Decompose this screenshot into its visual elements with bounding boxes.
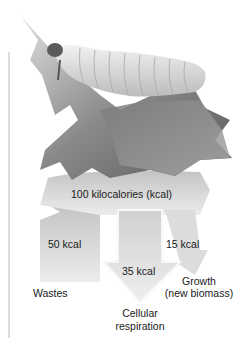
growth-value-label: 15 kcal — [166, 238, 199, 250]
respiration-destination-label-line1: Cellular — [110, 307, 170, 319]
respiration-value-label: 35 kcal — [122, 265, 155, 277]
energy-flow-diagram: 100 kilocalories (kcal) 50 kcal 15 kcal … — [0, 0, 252, 338]
input-energy-label: 100 kilocalories (kcal) — [71, 188, 172, 200]
respiration-destination-label-line2: respiration — [108, 320, 172, 332]
wastes-destination-label: Wastes — [33, 287, 68, 299]
growth-destination-label-line1: Growth — [163, 275, 235, 287]
leaf-image — [20, 15, 232, 180]
growth-destination-label-line2: (new biomass) — [161, 287, 237, 299]
wastes-value-label: 50 kcal — [48, 238, 81, 250]
